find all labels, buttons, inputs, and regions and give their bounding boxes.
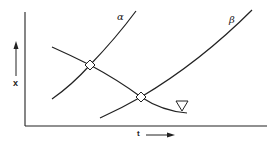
y-direction-arrow-icon (14, 41, 19, 76)
label-beta: β (229, 15, 235, 25)
label-alpha: α (117, 12, 124, 22)
y-axis-label: x (13, 79, 18, 88)
x-direction-arrow-icon (146, 133, 175, 138)
intersection-diamond-beta (136, 92, 146, 102)
x-axis-label: t (137, 130, 140, 138)
nabla-symbol-icon (176, 101, 188, 111)
curve-alpha (52, 11, 136, 99)
phase-diagram (0, 0, 278, 146)
